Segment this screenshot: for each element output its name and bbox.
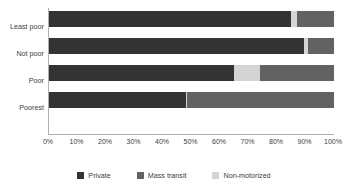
x-axis-tick-90pct: 90% [297, 136, 311, 148]
y-axis-label-least-poor: Least poor [0, 19, 44, 35]
legend-label: Private [88, 171, 110, 180]
plot-area [48, 8, 333, 134]
x-axis-tick-100pct: 100% [324, 136, 342, 148]
y-axis-label-poorest: Poorest [0, 100, 44, 116]
y-axis-label-not-poor: Not poor [0, 46, 44, 62]
chart-legend: PrivateMass transitNon-motorized [0, 168, 348, 182]
bar-segment-mass-transit [260, 65, 334, 81]
bar-segment-private [49, 38, 304, 54]
legend-swatch-icon [212, 172, 219, 179]
y-axis-label-poor: Poor [0, 73, 44, 89]
y-axis-category-labels: Least poor Not poor Poor Poorest [0, 8, 48, 134]
bar-segment-non-motorized [234, 65, 260, 81]
bars-layer [49, 8, 334, 134]
x-axis-tick-20pct: 20% [98, 136, 112, 148]
legend-label: Non-motorized [223, 171, 270, 180]
x-axis-tick-70pct: 70% [240, 136, 254, 148]
x-axis-tick-labels: 0%10%20%30%40%50%60%70%80%90%100% [48, 136, 333, 148]
x-axis-tick-30pct: 30% [126, 136, 140, 148]
x-axis-tick-10pct: 10% [69, 136, 83, 148]
x-axis-tick-40pct: 40% [155, 136, 169, 148]
legend-swatch-icon [77, 172, 84, 179]
legend-label: Mass transit [148, 171, 187, 180]
x-axis-line [48, 134, 334, 135]
legend-item-private[interactable]: Private [77, 171, 110, 180]
bar-segment-mass-transit [187, 92, 334, 108]
table-row [49, 92, 334, 108]
x-axis-tick-80pct: 80% [269, 136, 283, 148]
stacked-bar-chart: Least poor Not poor Poor Poorest 0%10%20… [0, 0, 348, 192]
bar-segment-mass-transit [308, 38, 334, 54]
table-row [49, 11, 334, 27]
x-axis-tick-50pct: 50% [183, 136, 197, 148]
bar-segment-private [49, 92, 186, 108]
bar-segment-private [49, 65, 234, 81]
legend-item-mass-transit[interactable]: Mass transit [137, 171, 187, 180]
bar-segment-mass-transit [297, 11, 334, 27]
bar-segment-private [49, 11, 291, 27]
x-axis-tick-60pct: 60% [212, 136, 226, 148]
x-axis-tick-0pct: 0% [43, 136, 53, 148]
table-row [49, 38, 334, 54]
legend-swatch-icon [137, 172, 144, 179]
table-row [49, 65, 334, 81]
legend-item-non-motorized[interactable]: Non-motorized [212, 171, 270, 180]
